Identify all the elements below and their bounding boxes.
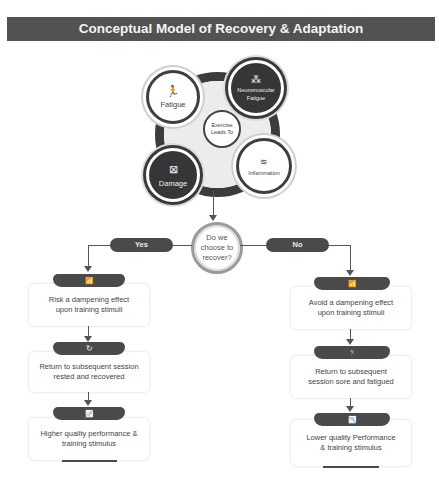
yes-card-3-text: Higher quality performance & training st… xyxy=(37,429,142,449)
yes-card-3-bottom-bar xyxy=(62,460,117,462)
no-card-1: Avoid a dampening effect upon training s… xyxy=(291,287,411,329)
yes-card-1-tab: 📶 xyxy=(53,274,125,287)
no-label: No xyxy=(266,238,329,252)
damage-icon: ⊠ xyxy=(169,163,178,176)
no-card-2-text: Return to subsequent session sore and fa… xyxy=(304,367,399,387)
neuromuscular-fatigue-node: ⁂ Neuromuscular Fatigue xyxy=(228,60,284,116)
arrow-no-2 xyxy=(346,339,354,345)
arrow-yes-3 xyxy=(84,400,92,406)
connector-yes-down xyxy=(88,245,89,267)
damage-label: Damage xyxy=(159,179,187,188)
fatigue-label: Fatigue xyxy=(160,100,185,109)
connector-decision-yes xyxy=(172,245,192,246)
no-card-3-text: Lower quality Performance & training sti… xyxy=(306,433,396,453)
signal-tower-icon: 📶 xyxy=(348,280,357,287)
yes-card-2: Return to subsequent session rested and … xyxy=(29,352,149,392)
no-card-2-tab: 🏃 xyxy=(314,346,390,359)
no-card-3: Lower quality Performance & training sti… xyxy=(291,420,411,466)
arrow-to-decision xyxy=(209,215,217,221)
yes-card-1-text: Risk a dampening effect upon training st… xyxy=(44,295,134,315)
title-banner: Conceptual Model of Recovery & Adaptatio… xyxy=(7,17,435,41)
connector-decision-no xyxy=(240,245,266,246)
yes-card-3: Higher quality performance & training st… xyxy=(29,418,149,460)
no-card-3-tab: 📉 xyxy=(314,413,390,426)
yes-card-2-tab: ↻ xyxy=(53,342,125,355)
yes-card-2-text: Return to subsequent session rested and … xyxy=(34,362,144,382)
no-card-1-tab: 📶 xyxy=(314,277,390,290)
connector-no-down xyxy=(350,245,351,271)
muscle-fiber-icon: ⁂ xyxy=(251,74,261,85)
running-person-icon: 🏃 xyxy=(348,349,357,356)
no-card-2: Return to subsequent session sore and fa… xyxy=(291,356,411,398)
connector-no-curve xyxy=(329,245,351,246)
signal-tower-icon: 📶 xyxy=(85,277,94,284)
inflammation-label: Inflammation xyxy=(248,170,280,176)
damage-node: ⊠ Damage xyxy=(146,148,200,202)
refresh-icon: ↻ xyxy=(86,344,93,353)
inflammation-node: ≋ Inflammation xyxy=(236,138,292,194)
exercise-center-node: Exercise Leads To xyxy=(203,110,241,148)
running-person-icon: 🏃 xyxy=(166,85,180,98)
no-card-1-text: Avoid a dampening effect upon training s… xyxy=(304,298,399,318)
arrow-yes xyxy=(84,266,92,272)
neuromuscular-fatigue-label: Neuromuscular Fatigue xyxy=(236,87,276,101)
arrow-no-3 xyxy=(346,406,354,412)
decision-node: Do we choose to recover? xyxy=(191,222,243,274)
inflammation-icon: ≋ xyxy=(260,157,268,167)
no-card-3-bottom-bar xyxy=(323,466,379,468)
yes-card-3-tab: 📈 xyxy=(53,407,125,420)
fatigue-node: 🏃 Fatigue xyxy=(146,70,200,124)
connector-cluster-decision xyxy=(213,190,214,218)
arrow-no xyxy=(346,270,354,276)
chart-up-icon: 📈 xyxy=(85,410,94,417)
yes-card-1: Risk a dampening effect upon training st… xyxy=(29,284,149,326)
exercise-effects-cluster: 🏃 Fatigue ⁂ Neuromuscular Fatigue Exerci… xyxy=(130,52,310,212)
yes-label: Yes xyxy=(110,238,173,252)
connector-yes-curve xyxy=(88,245,111,246)
chart-down-icon: 📉 xyxy=(348,416,357,423)
